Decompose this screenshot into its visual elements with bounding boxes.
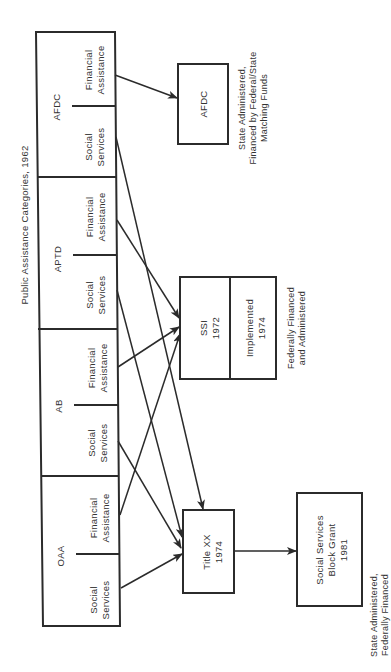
public-assistance-diagram: Public Assistance Categories, 1962 AFDC …	[0, 0, 391, 672]
program-block-grant: Social Services Block Grant 1981 State A…	[297, 493, 390, 657]
arrow-oaa-social-to-titlexx	[121, 554, 182, 588]
arrow-afdc-financial-to-afdc	[115, 75, 177, 98]
ssi-label: SSI	[198, 320, 209, 336]
social-label: Services	[96, 276, 107, 315]
arrow-aptd-financial-to-ssi	[117, 220, 179, 318]
ssi-implemented: Implemented	[244, 299, 255, 357]
ssi-note: and Administered	[297, 291, 307, 365]
block-grant-note: Federally Financed	[380, 574, 390, 656]
financial-label: Assistance	[96, 193, 107, 242]
financial-label: Financial	[86, 348, 97, 389]
program-afdc: AFDC State Administered, Financed by Fed…	[178, 51, 269, 164]
financial-label: Assistance	[100, 494, 111, 543]
financial-label: Financial	[83, 50, 94, 91]
program-ssi: SSI 1972 Implemented 1974 Federally Fina…	[180, 277, 307, 379]
social-label: Services	[100, 581, 111, 620]
financial-label: Financial	[84, 197, 95, 238]
financial-label: Assistance	[98, 344, 109, 393]
social-label: Social	[88, 586, 99, 614]
category-name: APTD	[52, 246, 63, 273]
block-grant-year: 1981	[338, 539, 349, 561]
category-name: OAA	[55, 545, 66, 566]
diagram-title: Public Assistance Categories, 1962	[19, 145, 30, 304]
arrow-oaa-financial-to-ssi	[120, 334, 180, 515]
financial-label: Assistance	[95, 46, 106, 95]
title-xx-year: 1974	[213, 541, 224, 563]
financial-label: Financial	[88, 498, 99, 539]
arrow-aptd-social-to-titlexx	[117, 290, 182, 537]
social-label: Services	[95, 128, 106, 167]
ssi-note: Federally Financed	[286, 287, 296, 369]
category-name: AB	[53, 399, 64, 412]
category-name: AFDC	[51, 93, 62, 120]
ssi-implemented-year: 1974	[256, 317, 267, 339]
social-label: Social	[83, 133, 94, 161]
afdc-label: AFDC	[198, 90, 209, 117]
title-xx-label: Title XX	[201, 534, 212, 570]
ssi-year: 1972	[210, 317, 221, 339]
afdc-note: State Administered,	[237, 66, 247, 150]
social-label: Social	[84, 281, 95, 309]
afdc-note: Financed by Federal/State	[248, 51, 258, 164]
arrow-ab-financial-to-ssi	[118, 327, 179, 367]
block-grant-note: State Administered,	[369, 573, 379, 657]
social-label: Services	[98, 424, 109, 463]
afdc-note: Matching Funds	[259, 74, 269, 142]
social-label: Social	[86, 429, 97, 457]
block-grant-label: Social Services	[314, 515, 325, 584]
program-title-xx: Title XX 1974	[183, 510, 234, 593]
block-grant-label: Block Grant	[326, 523, 337, 576]
